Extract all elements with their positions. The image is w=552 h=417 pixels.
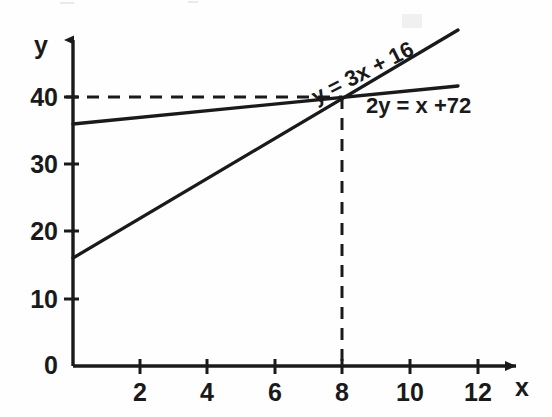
x-tick-label-10: 10 <box>396 380 424 405</box>
x-tick-label-2: 2 <box>133 380 147 405</box>
line-graph-svg <box>0 0 552 417</box>
x-axis-label: x <box>515 375 529 400</box>
y-tick-label-10: 10 <box>20 287 58 312</box>
series-label-2y-x-72: 2y = x +72 <box>366 95 471 117</box>
y-tick-label-40: 40 <box>20 85 58 110</box>
origin-tick-label: 0 <box>44 353 58 378</box>
x-tick-label-4: 4 <box>200 380 214 405</box>
y-axis-label: y <box>34 33 48 58</box>
y-tick-label-20: 20 <box>20 219 58 244</box>
x-tick-label-6: 6 <box>268 380 282 405</box>
y-tick-label-30: 30 <box>20 152 58 177</box>
x-tick-label-8: 8 <box>335 380 349 405</box>
x-tick-label-12: 12 <box>464 380 492 405</box>
chart-canvas: y x 0 40 30 20 10 2 4 6 8 10 12 y = 3x +… <box>0 0 552 417</box>
